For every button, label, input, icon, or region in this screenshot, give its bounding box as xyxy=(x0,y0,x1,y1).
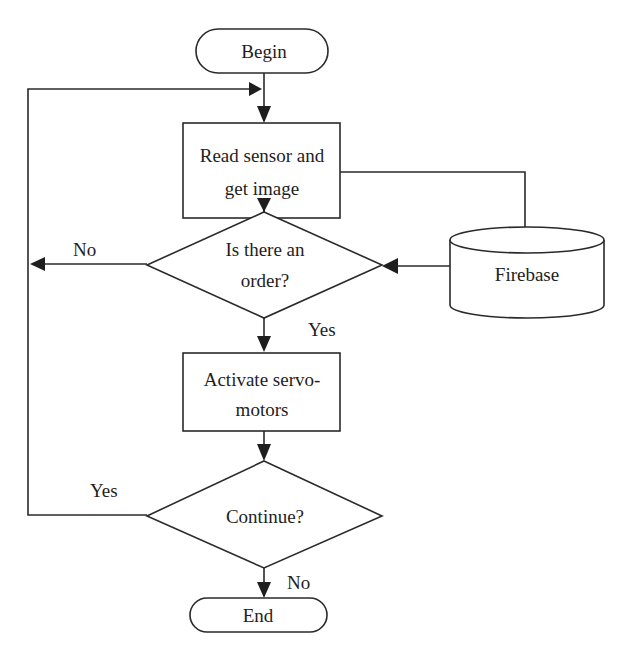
begin-label: Begin xyxy=(241,41,287,62)
order-yes-label: Yes xyxy=(308,319,336,340)
arrow-down-icon xyxy=(257,444,271,461)
begin-terminator: Begin xyxy=(196,29,328,73)
end-label: End xyxy=(243,605,274,626)
arrow-down-icon xyxy=(257,336,271,352)
continue-decision: Continue? xyxy=(147,461,382,568)
activate-servomotors-process: Activate servo- motors xyxy=(183,353,340,431)
order-decision: Is there an order? xyxy=(147,212,382,318)
order-no-label: No xyxy=(73,239,96,260)
flowchart: Begin Read sensor and get image Is there… xyxy=(0,0,636,654)
continue-label: Continue? xyxy=(226,506,304,527)
arrow-down-icon xyxy=(257,582,271,598)
activate-label-line-1: Activate servo- xyxy=(204,369,321,390)
loop-back-arrowhead-icon xyxy=(249,82,262,96)
order-label-line-1: Is there an xyxy=(225,239,305,260)
arrow-down-icon xyxy=(257,106,271,123)
continue-yes-label: Yes xyxy=(90,480,118,501)
firebase-database: Firebase xyxy=(450,227,604,318)
read-label-line-2: get image xyxy=(225,178,299,199)
end-terminator: End xyxy=(190,598,327,632)
arrow-left-icon xyxy=(30,257,45,271)
read-label-line-1: Read sensor and xyxy=(200,145,325,166)
firebase-label: Firebase xyxy=(495,264,559,285)
order-label-line-2: order? xyxy=(241,270,290,291)
continue-no-label: No xyxy=(287,572,310,593)
arrow-left-icon xyxy=(382,258,398,274)
activate-label-line-2: motors xyxy=(236,399,289,420)
